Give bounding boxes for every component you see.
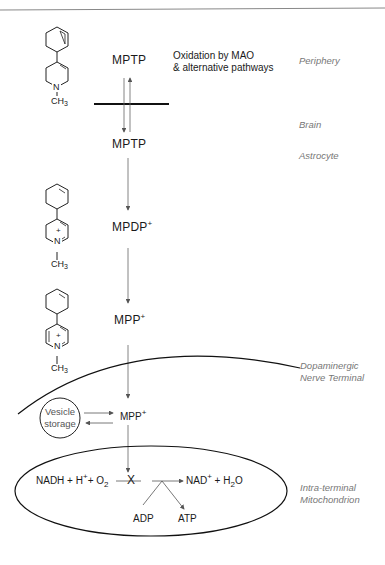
products-h-sub: 2 bbox=[230, 480, 234, 489]
block-marker: X bbox=[127, 473, 135, 487]
methyl-sub: 3 bbox=[64, 100, 68, 107]
mpdp-structure bbox=[46, 184, 68, 260]
vesicle-line2: storage bbox=[43, 418, 77, 430]
methyl-text: CH bbox=[51, 96, 64, 106]
mpdp-sup: + bbox=[147, 219, 152, 228]
products-h: + H bbox=[212, 475, 231, 486]
region-periphery: Periphery bbox=[299, 55, 340, 67]
nerve-terminal-line2: Nerve Terminal bbox=[300, 372, 364, 384]
label-mpdp: MPDP+ bbox=[112, 220, 152, 234]
label-mptp-brain: MPTP bbox=[112, 137, 146, 151]
label-mpp: MPP+ bbox=[114, 313, 145, 327]
adp-branch-line bbox=[143, 481, 162, 505]
mpdp-charge: + bbox=[56, 226, 61, 235]
mitochondrion-line2: Mitochondrion bbox=[300, 494, 360, 506]
label-adp: ADP bbox=[133, 513, 154, 524]
mptp-nitrogen: N bbox=[52, 82, 61, 92]
mpp-structure bbox=[46, 289, 68, 364]
products-nad-charge: + bbox=[207, 472, 212, 481]
mpdp-methyl: CH3 bbox=[51, 259, 68, 269]
label-mpp-terminal: MPP+ bbox=[120, 411, 146, 422]
mitochondrion-line1: Intra-terminal bbox=[300, 482, 360, 494]
reactants-h-charge: + bbox=[83, 472, 88, 481]
methyl-sub: 3 bbox=[64, 367, 68, 374]
reactants-o: + O bbox=[88, 475, 104, 486]
top-rule bbox=[0, 8, 385, 10]
mpp-methyl: CH3 bbox=[51, 363, 68, 373]
region-mitochondrion: Intra-terminal Mitochondrion bbox=[300, 482, 360, 506]
mpp-charge-structure: + bbox=[56, 331, 61, 340]
region-astrocyte: Astrocyte bbox=[299, 150, 339, 162]
methyl-text: CH bbox=[51, 259, 64, 269]
mpp-terminal-text: MPP bbox=[120, 411, 142, 422]
oxidation-note: Oxidation by MAO & alternative pathways bbox=[173, 50, 274, 74]
mpp-nitrogen: N bbox=[53, 341, 62, 351]
mpp-text: MPP bbox=[114, 313, 141, 327]
reactants-o-sub: 2 bbox=[104, 480, 108, 489]
vesicle-label: Vesicle storage bbox=[43, 406, 77, 430]
mpp-sup: + bbox=[141, 312, 146, 321]
nerve-terminal-line1: Dopaminergic bbox=[300, 360, 364, 372]
mptp-methyl: CH3 bbox=[51, 96, 68, 106]
mpdp-text: MPDP bbox=[112, 220, 147, 234]
reaction-reactants: NADH + H++ O2 bbox=[36, 475, 108, 486]
label-atp: ATP bbox=[178, 513, 197, 524]
region-nerve-terminal: Dopaminergic Nerve Terminal bbox=[300, 360, 364, 384]
mpdp-nitrogen: N bbox=[53, 236, 62, 246]
methyl-text: CH bbox=[51, 363, 64, 373]
methyl-sub: 3 bbox=[64, 263, 68, 270]
atp-branch-arrow bbox=[162, 481, 184, 509]
reaction-products: NAD+ + H2O bbox=[186, 475, 243, 486]
mpp-terminal-sup: + bbox=[142, 408, 147, 417]
products-nad: NAD bbox=[186, 475, 207, 486]
reactants-nadh: NADH + H bbox=[36, 475, 83, 486]
vesicle-line1: Vesicle bbox=[43, 406, 77, 418]
region-brain: Brain bbox=[299, 119, 321, 131]
oxidation-note-line1: Oxidation by MAO bbox=[173, 50, 274, 62]
label-mptp-periphery: MPTP bbox=[112, 53, 146, 67]
products-o: O bbox=[235, 475, 243, 486]
oxidation-note-line2: & alternative pathways bbox=[173, 62, 274, 74]
